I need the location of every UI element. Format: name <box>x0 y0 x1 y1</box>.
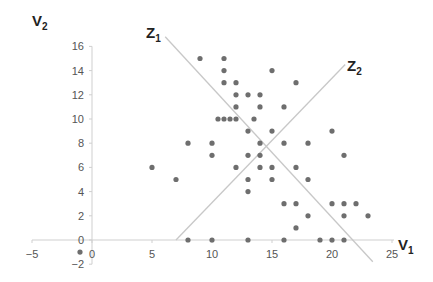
data-point <box>233 165 238 170</box>
data-point <box>173 177 178 182</box>
y-tick-label: 2 <box>78 210 84 222</box>
data-point <box>221 116 226 121</box>
data-point <box>269 129 274 134</box>
data-point <box>245 177 250 182</box>
data-point <box>341 237 346 242</box>
data-point <box>149 165 154 170</box>
y-tick-label: 10 <box>72 113 84 125</box>
data-point <box>365 213 370 218</box>
data-point <box>209 153 214 158</box>
data-point <box>341 213 346 218</box>
data-point <box>317 237 322 242</box>
data-point <box>293 201 298 206</box>
data-point <box>257 92 262 97</box>
x-tick-label: 20 <box>326 248 338 260</box>
x-tick-label: 5 <box>149 248 155 260</box>
data-point <box>269 165 274 170</box>
data-point <box>245 92 250 97</box>
data-point <box>233 80 238 85</box>
component-lines <box>165 37 373 262</box>
data-point <box>233 116 238 121</box>
data-point <box>281 237 286 242</box>
data-point <box>305 177 310 182</box>
data-point <box>353 201 358 206</box>
data-point <box>245 129 250 134</box>
data-point <box>341 153 346 158</box>
data-point <box>197 56 202 61</box>
data-point <box>215 116 220 121</box>
data-point <box>329 201 334 206</box>
data-point <box>245 189 250 194</box>
data-point <box>305 141 310 146</box>
data-point <box>209 237 214 242</box>
data-point <box>77 250 82 255</box>
data-point <box>245 237 250 242</box>
z1-label: Z1 <box>146 24 161 44</box>
data-points <box>77 56 370 255</box>
data-point <box>281 201 286 206</box>
data-point <box>221 56 226 61</box>
data-point <box>305 213 310 218</box>
x-tick-label: 15 <box>266 248 278 260</box>
y-tick-label: 14 <box>72 65 84 77</box>
data-point <box>221 68 226 73</box>
y-tick-label: 6 <box>78 161 84 173</box>
x-tick-label: 25 <box>386 248 398 260</box>
data-point <box>329 129 334 134</box>
data-point <box>227 116 232 121</box>
data-point <box>257 141 262 146</box>
data-point <box>269 68 274 73</box>
data-point <box>341 201 346 206</box>
data-point <box>293 80 298 85</box>
data-point <box>257 153 262 158</box>
z2-label: Z2 <box>347 57 362 77</box>
data-point <box>257 104 262 109</box>
data-point <box>209 141 214 146</box>
data-point <box>281 104 286 109</box>
z1-line <box>165 37 373 262</box>
data-point <box>233 92 238 97</box>
data-point <box>281 141 286 146</box>
scatter-chart: −50510152025−20246810121416 V2 V1 Z1 Z2 <box>0 0 433 282</box>
y-tick-label: 4 <box>78 186 84 198</box>
x-tick-label: 10 <box>206 248 218 260</box>
x-axis-label: V1 <box>398 236 414 256</box>
data-point <box>233 104 238 109</box>
y-tick-label: 12 <box>72 89 84 101</box>
data-point <box>293 225 298 230</box>
data-point <box>245 153 250 158</box>
data-point <box>185 237 190 242</box>
y-axis-label: V2 <box>32 12 48 32</box>
x-tick-label: 0 <box>89 248 95 260</box>
z2-line <box>176 65 345 240</box>
x-tick-label: −5 <box>26 248 39 260</box>
y-tick-label: 8 <box>78 137 84 149</box>
data-point <box>293 165 298 170</box>
data-point <box>251 116 256 121</box>
data-point <box>185 141 190 146</box>
y-tick-label: 16 <box>72 40 84 52</box>
data-point <box>221 80 226 85</box>
y-tick-label: −2 <box>71 258 84 270</box>
data-point <box>329 237 334 242</box>
data-point <box>257 165 262 170</box>
data-point <box>269 177 274 182</box>
y-tick-label: 0 <box>78 234 84 246</box>
